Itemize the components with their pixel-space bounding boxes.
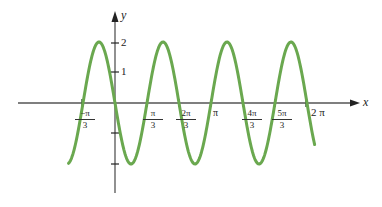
- chart-canvas: [0, 0, 382, 207]
- fraction-numerator: π: [143, 109, 163, 120]
- fraction-denominator: 3: [242, 120, 262, 130]
- x-tick-label-5pi-over-3: 5π 3: [272, 109, 292, 130]
- x-tick-label-2pi-over-3: 2π 3: [176, 109, 196, 130]
- fraction-denominator: 3: [272, 120, 292, 130]
- fraction-numerator: 5π: [272, 109, 292, 120]
- fraction-denominator: 3: [75, 120, 95, 130]
- x-tick-label-neg-pi-over-3: −π 3: [75, 109, 95, 130]
- x-axis-label: x: [363, 95, 368, 110]
- fraction-denominator: 3: [176, 120, 196, 130]
- fraction-denominator: 3: [143, 120, 163, 130]
- y-tick-label-1: 1: [121, 66, 127, 77]
- fraction-numerator: 4π: [242, 109, 262, 120]
- fraction-numerator: 2π: [176, 109, 196, 120]
- x-tick-label-4pi-over-3: 4π 3: [242, 109, 262, 130]
- x-tick-label-2pi: 2 π: [311, 107, 325, 118]
- y-tick-label-2: 2: [121, 37, 127, 48]
- y-axis-arrow-icon: [112, 11, 119, 22]
- x-axis-arrow-icon: [350, 100, 360, 107]
- y-axis-label: y: [121, 8, 126, 23]
- x-tick-label-pi-over-3: π 3: [143, 109, 163, 130]
- x-tick-label-pi: π: [213, 108, 218, 118]
- fraction-numerator: −π: [75, 109, 95, 120]
